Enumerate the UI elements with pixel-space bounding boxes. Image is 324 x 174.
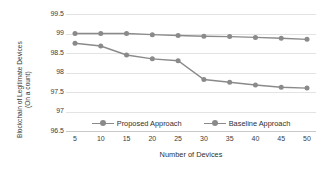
x-axis-tick-label: 20 <box>141 135 163 142</box>
legend-item-baseline-approach[interactable]: Baseline Approach <box>204 119 291 128</box>
data-point-marker <box>124 31 129 36</box>
data-point-marker <box>227 34 232 39</box>
legend-label: Baseline Approach <box>229 119 291 128</box>
x-axis-tick-label: 30 <box>193 135 215 142</box>
chart-legend: Proposed Approach Baseline Approach <box>66 116 316 130</box>
data-point-marker <box>253 35 258 40</box>
x-axis-tick-label: 45 <box>270 135 292 142</box>
legend-marker-icon <box>204 119 226 127</box>
y-axis-tick-label: 96.5 <box>50 127 64 134</box>
series-proposed-approach <box>73 31 310 42</box>
x-axis-tick-label: 40 <box>244 135 266 142</box>
legend-label: Proposed Approach <box>117 119 182 128</box>
data-point-marker <box>150 32 155 37</box>
data-point-marker <box>73 31 78 36</box>
plot-area <box>66 14 316 131</box>
x-axis-tick-label: 10 <box>90 135 112 142</box>
data-point-marker <box>227 80 232 85</box>
series-container <box>66 14 316 131</box>
y-axis-tick-label: 98 <box>56 68 64 75</box>
y-axis-tick-label: 98.5 <box>50 49 64 56</box>
chart-figure: Blockchain of Legitimate Devices (On a c… <box>0 0 324 174</box>
series-baseline-approach <box>73 41 310 91</box>
data-point-marker <box>305 37 310 42</box>
x-axis-tick-label: 50 <box>296 135 318 142</box>
x-axis-tick-label: 15 <box>116 135 138 142</box>
data-point-marker <box>201 34 206 39</box>
data-point-marker <box>98 31 103 36</box>
data-point-marker <box>124 52 129 57</box>
data-point-marker <box>73 41 78 46</box>
legend-item-proposed-approach[interactable]: Proposed Approach <box>92 119 182 128</box>
data-point-marker <box>305 86 310 91</box>
x-axis-tick-label: 25 <box>167 135 189 142</box>
data-point-marker <box>201 77 206 82</box>
x-axis-tick-label: 35 <box>219 135 241 142</box>
data-point-marker <box>253 82 258 87</box>
x-axis-line <box>66 131 316 132</box>
x-axis-tick-label: 5 <box>64 135 86 142</box>
data-point-marker <box>279 36 284 41</box>
y-axis-tick-label: 97 <box>56 107 64 114</box>
data-point-marker <box>279 85 284 90</box>
data-point-marker <box>176 33 181 38</box>
legend-marker-icon <box>92 119 114 127</box>
y-axis-tick-labels: 99.59998.59897.59796.5 <box>20 14 64 131</box>
data-point-marker <box>150 56 155 61</box>
data-point-marker <box>98 43 103 48</box>
series-line <box>75 43 307 88</box>
y-axis-tick-label: 97.5 <box>50 88 64 95</box>
x-axis-tick-labels: 5101520253035404550 <box>66 135 316 147</box>
series-line <box>75 34 307 40</box>
y-axis-tick-label: 99 <box>56 29 64 36</box>
x-axis-title: Number of Devices <box>66 150 316 159</box>
data-point-marker <box>176 58 181 63</box>
y-axis-tick-label: 99.5 <box>50 10 64 17</box>
